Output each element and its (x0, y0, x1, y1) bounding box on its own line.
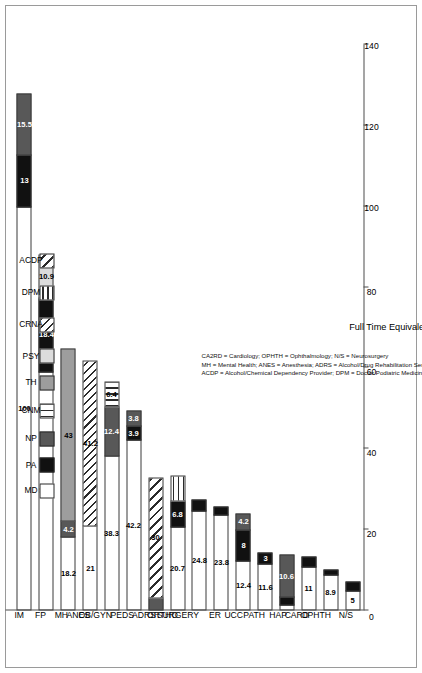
legend-swatch-dpm (39, 285, 54, 300)
legend-label: DPM (21, 287, 40, 298)
axis-tick-label: 20 (366, 528, 376, 538)
bar-segment-np: 10.6 (279, 554, 294, 597)
axis-tick-label: 120 (364, 122, 378, 132)
bar-segment-pa (323, 569, 338, 575)
segment-value-label: 11 (304, 584, 312, 592)
segment-value-label: 6.8 (172, 510, 183, 518)
legend-label: PSY (22, 350, 39, 361)
legend-swatch-cnm (39, 403, 54, 418)
segment-value-label: 24.8 (192, 556, 207, 564)
stacked-bar: 23.8 (213, 506, 228, 610)
legend-label: ACDP (19, 255, 42, 266)
bar-segment-md: 23.8 (213, 514, 228, 610)
bar-segment-md: 8.9 (323, 574, 338, 610)
footnote-line: ACDP = Alcohol/Chemical Dependency Provi… (201, 368, 422, 376)
stacked-bar: 10.6 (279, 554, 294, 610)
segment-value-label: 21 (85, 564, 93, 572)
segment-value-label: 12.4 (104, 427, 119, 435)
legend-label: PA (25, 459, 36, 470)
bar-row: 10.6HAP (279, 44, 294, 610)
segment-value-label: 11.6 (257, 583, 271, 591)
segment-value-label: 38.3 (104, 529, 119, 537)
legend-item-pa[interactable]: PA (25, 457, 54, 472)
segment-value-label: 4.2 (62, 525, 73, 533)
bar-segment-pa: 3.9 (126, 425, 141, 441)
bar-segment-pa: 8 (235, 529, 250, 561)
stacked-bar: 5 (345, 581, 360, 610)
segment-value-label: 23.8 (213, 558, 228, 566)
category-axis (5, 609, 363, 610)
stacked-bar: 18.24.243 (60, 348, 75, 610)
bar-row: 8.9OPHTH (323, 44, 338, 610)
legend-item-crna[interactable]: CRNA (25, 312, 54, 336)
segment-value-label: 30 (151, 534, 159, 542)
segment-value-label: 15.5 (17, 120, 32, 128)
axis-tick-label: 100 (364, 203, 378, 213)
stacked-bar: 2141.2 (82, 360, 97, 610)
bar-segment-pa (213, 506, 228, 515)
segment-value-label: 6.4 (106, 390, 117, 398)
legend-label: CRNA (19, 319, 43, 330)
segment-value-label: 3.9 (128, 429, 139, 437)
legend-item-acdp[interactable]: ACDP (25, 249, 54, 272)
bar-row: 20.76.8ORTHO (170, 44, 185, 610)
axis-tick-label: 140 (364, 41, 378, 51)
segment-value-label: 18.2 (60, 569, 75, 577)
bar-row: 18.24.243MH (60, 44, 75, 610)
bar-segment-md: 11 (301, 566, 316, 610)
stacked-bar: 30 (148, 477, 163, 610)
legend-swatch-np (39, 431, 54, 446)
stacked-bar: 12.484.2 (235, 513, 250, 610)
bar-row: 11.63PATH (257, 44, 272, 610)
bar-segment-md: 11.6 (257, 563, 272, 610)
legend-item-cnm[interactable]: CNM (25, 401, 54, 420)
bar-segment-cnm: 6.4 (104, 381, 119, 407)
bar-segment-md: 24.8 (191, 510, 206, 610)
bar-row: 42.23.93.8PEDS (126, 44, 141, 610)
bar-segment-np: 4.2 (60, 520, 75, 537)
segment-value-label: 5 (350, 596, 354, 604)
bar-segment-pa: 6.8 (170, 500, 185, 527)
bar-segment-th: 43 (60, 348, 75, 522)
bar-segment-md: 20.7 (170, 526, 185, 610)
value-axis-title-text: Full Time Equivalent (349, 322, 422, 332)
bar-segment-md: 38.3 (104, 455, 119, 610)
bar-segment-pa (191, 499, 206, 510)
bar-segment-np: 4.2 (235, 513, 250, 530)
rotated-figure: 1001315.5IM59.218.410.9FP18.24.243MH2141… (5, 5, 417, 668)
legend-label: TH (25, 377, 36, 388)
axis-tick-label: 80 (366, 286, 376, 296)
bar-segment-np: 15.5 (16, 93, 31, 156)
legend-item-psy[interactable]: PSY (25, 347, 54, 364)
bar-segment-crna: 41.2 (82, 360, 97, 527)
legend-label: CNM (21, 405, 40, 416)
bar-row: 12.484.2UCC (235, 44, 250, 610)
axis-tick (363, 609, 368, 610)
legend-swatch-psy (39, 348, 54, 363)
bar-row: 2141.2ANES (82, 44, 97, 610)
bar-segment-md: 21 (82, 525, 97, 610)
stacked-bar: 42.23.93.8 (126, 410, 141, 610)
segment-value-label: 10.6 (279, 572, 294, 580)
segment-value-label: 13 (20, 177, 28, 185)
segment-value-label: 41.2 (82, 439, 97, 447)
bar-segment-pa (301, 556, 316, 567)
legend-item-dpm[interactable]: DPM (25, 283, 54, 302)
bar-segment-md: 12.4 (235, 560, 250, 610)
legend-item-th[interactable]: TH (25, 375, 54, 390)
segment-value-label: 12.4 (235, 581, 250, 589)
bar-segment-acdp: 30 (148, 477, 163, 598)
legend-item-md[interactable]: MD (25, 483, 54, 498)
segment-value-label: 43 (63, 431, 71, 439)
segment-value-label: 20.7 (170, 564, 185, 572)
bar-segment-md: 42.2 (126, 439, 141, 610)
bar-segment-dpm (170, 475, 185, 501)
bar-segment-pa (345, 581, 360, 591)
stacked-bar: 8.9 (323, 569, 338, 610)
stacked-bar: 11 (301, 556, 316, 610)
bar-row: 30ADRS (148, 44, 163, 610)
legend-item-np[interactable]: NP (25, 431, 54, 446)
footnote-line: MH = Mental Health; ANES = Anesthesia; A… (201, 360, 422, 368)
bar-segment-pa: 13 (16, 154, 31, 207)
bar-segment-md: 18.2 (60, 536, 75, 610)
